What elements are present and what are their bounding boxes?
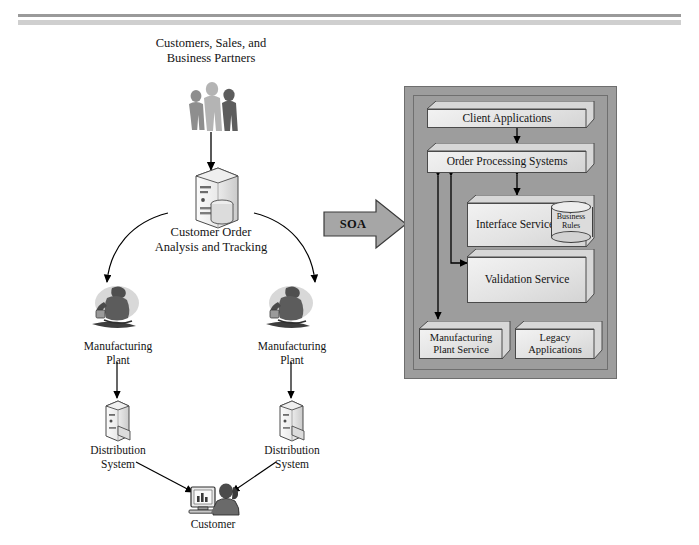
plant-left-line1: Manufacturing	[62, 340, 174, 354]
customer-label: Customer	[158, 518, 268, 532]
box-order-processing-systems-label: Order Processing Systems	[427, 151, 587, 173]
box-legacy-applications-label: Legacy Applications	[515, 329, 595, 359]
factory-worker-icon-left	[92, 286, 139, 328]
distribution-right-line2: System	[236, 458, 348, 472]
mps-line1: Manufacturing	[430, 332, 492, 344]
box-manufacturing-plant-service[interactable]: Manufacturing Plant Service	[419, 321, 511, 359]
distribution-left-line1: Distribution	[62, 444, 174, 458]
server-tower-icon-left	[106, 401, 130, 441]
central-system-line2: Analysis and Tracking	[131, 240, 291, 255]
server-tower-with-database-icon	[196, 168, 238, 228]
box-order-processing-systems[interactable]: Order Processing Systems	[427, 143, 595, 173]
actors-label-line1: Customers, Sales, and	[131, 36, 291, 51]
central-system-label: Customer Order Analysis and Tracking	[131, 225, 291, 255]
mps-line2: Plant Service	[433, 344, 489, 356]
legacy-line1: Legacy	[540, 332, 571, 344]
legacy-line2: Applications	[528, 344, 582, 356]
box-validation-service[interactable]: Validation Service	[467, 249, 595, 303]
three-people-icon	[189, 82, 238, 131]
box-manufacturing-plant-service-label: Manufacturing Plant Service	[419, 329, 503, 359]
plant-left-label: Manufacturing Plant	[62, 340, 174, 367]
distribution-right-label: Distribution System	[236, 444, 348, 471]
box-legacy-applications[interactable]: Legacy Applications	[515, 321, 603, 359]
plant-right-line1: Manufacturing	[236, 340, 348, 354]
box-client-applications-label: Client Applications	[427, 109, 587, 128]
soa-label: SOA	[322, 198, 384, 250]
database-cylinder-icon[interactable]: Business Rules	[551, 201, 591, 243]
actors-label: Customers, Sales, and Business Partners	[131, 36, 291, 66]
factory-worker-icon-right	[266, 286, 313, 328]
box-validation-service-label: Validation Service	[467, 257, 587, 303]
distribution-left-line2: System	[62, 458, 174, 472]
central-system-line1: Customer Order	[131, 225, 291, 240]
distribution-right-line1: Distribution	[236, 444, 348, 458]
business-rules-line2: Rules	[562, 222, 580, 231]
actors-label-line2: Business Partners	[131, 51, 291, 66]
business-rules-label: Business Rules	[551, 201, 591, 243]
person-at-computer-icon	[189, 484, 239, 515]
server-tower-icon-right	[280, 401, 304, 441]
box-client-applications[interactable]: Client Applications	[427, 101, 595, 128]
soa-transition: SOA	[322, 198, 408, 250]
plant-right-line2: Plant	[236, 354, 348, 368]
diagram-canvas: Customers, Sales, and Business Partners …	[0, 0, 699, 545]
soa-architecture-panel: Client Applications Order Processing Sys…	[404, 86, 617, 379]
plant-left-line2: Plant	[62, 354, 174, 368]
distribution-left-label: Distribution System	[62, 444, 174, 471]
plant-right-label: Manufacturing Plant	[236, 340, 348, 367]
